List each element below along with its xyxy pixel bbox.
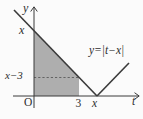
y-intercept-label: x xyxy=(19,24,24,36)
equation-label: y=|t−x| xyxy=(89,45,124,57)
tick-3-label: 3 xyxy=(76,98,82,110)
vertex-x-label: x xyxy=(92,98,97,110)
y-axis-label: y xyxy=(23,2,28,14)
x-minus-3-label: x−3 xyxy=(5,70,23,81)
graph-svg xyxy=(0,0,143,119)
shaded-region xyxy=(34,31,79,96)
t-axis-label: t xyxy=(132,96,135,108)
graph-line-right-branch xyxy=(97,63,129,96)
figure-canvas: y x x−3 O 3 x t y=|t−x| xyxy=(0,0,143,119)
origin-label: O xyxy=(24,97,32,109)
